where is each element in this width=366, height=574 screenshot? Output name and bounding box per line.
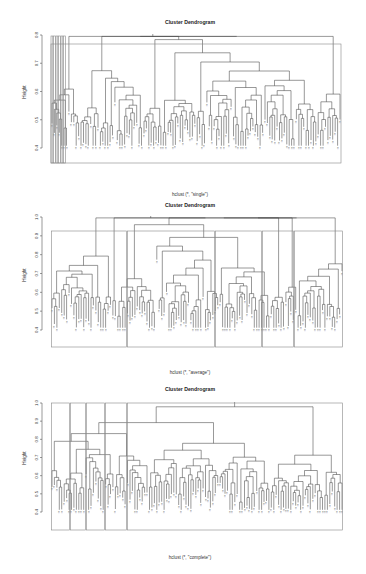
leaf-label: ▯ [337, 147, 339, 150]
leaf-label: ▯ [66, 500, 68, 503]
leaf-label: ▯ [131, 147, 133, 150]
leaf-label: ▯ [309, 319, 311, 322]
cluster-rect [51, 36, 53, 163]
leaf-label: ▯ [224, 495, 226, 498]
leaf-label: ▯ [97, 324, 99, 327]
leaf-label: ▯ [163, 314, 165, 317]
leaf-label: ▯ [274, 142, 276, 145]
leaf-label: ▯ [112, 137, 114, 140]
leaf-label: ▯ [187, 304, 189, 307]
leaf-label: ▯ [228, 145, 230, 148]
leaf-label: ▯ [322, 312, 324, 315]
leaf-label: ▯ [220, 147, 222, 150]
leaf-label: ▯ [190, 322, 192, 325]
leaf-label: ▯ [205, 329, 207, 332]
leaf-label: ▯ [88, 323, 90, 326]
y-tick-label: 0.6 [34, 472, 39, 479]
leaf-label: ▯ [178, 506, 180, 509]
leaf-label: ▯ [253, 508, 255, 511]
leaf-label: ▯ [197, 490, 199, 493]
leaf-label: ▯ [295, 121, 297, 124]
leaf-label: ▯ [211, 142, 213, 145]
y-axis: 0.40.50.60.70.80.91.0 [34, 213, 42, 333]
leaf-label: ▯ [177, 125, 179, 128]
leaf-label: ▯ [150, 144, 152, 147]
leaf-label: ▯ [95, 312, 97, 315]
leaf-label: ▯ [324, 329, 326, 332]
leaf-label: ▯ [163, 511, 165, 514]
leaf-label: ▯ [180, 324, 182, 327]
leaf-label: ▯ [331, 493, 333, 496]
leaf-label: ▯ [88, 511, 90, 514]
y-tick-label: 0.7 [34, 454, 39, 461]
leaf-label: ▯ [312, 322, 314, 325]
leaf-label: ▯ [174, 146, 176, 149]
leaf-label: ▯ [234, 504, 236, 507]
leaf-label: ▯ [300, 327, 302, 330]
leaf-label: ▯ [217, 307, 219, 310]
leaf-label: ▯ [191, 138, 193, 141]
leaf-label: ▯ [252, 128, 254, 131]
leaf-label: ▯ [107, 506, 109, 509]
leaf-label: ▯ [63, 317, 65, 320]
leaf-label: ▯ [246, 314, 248, 317]
y-axis-label: Height [22, 268, 27, 282]
leaf-label: ▯ [92, 307, 94, 310]
leaf-label: ▯ [269, 137, 271, 140]
leaf-label: ▯ [231, 320, 233, 323]
leaf-label: ▯ [78, 138, 80, 141]
leaf-label: ▯ [146, 494, 148, 497]
leaf-label: ▯ [73, 317, 75, 320]
leaf-label: ▯ [304, 329, 306, 332]
leaf-label: ▯ [119, 329, 121, 332]
leaf-label: ▯ [122, 499, 124, 502]
leaf-label: ▯ [124, 506, 126, 509]
leaf-label: ▯ [281, 140, 283, 143]
leaf-label: ▯ [329, 318, 331, 321]
leaf-label: ▯ [236, 322, 238, 325]
leaf-label: ▯ [326, 318, 328, 321]
y-tick-label: 0.7 [34, 270, 39, 277]
leaf-label: ▯ [124, 146, 126, 149]
leaf-label: ▯ [153, 147, 155, 150]
leaf-label: ▯ [209, 322, 211, 325]
y-tick-label: 0.5 [34, 116, 39, 123]
y-tick-label: 0.9 [34, 418, 39, 425]
leaf-label: ▯ [128, 136, 130, 139]
leaf-label: ▯ [209, 509, 211, 512]
leaf-label: ▯ [143, 135, 145, 138]
leaf-label: ▯ [207, 328, 209, 331]
leaf-label: ▯ [216, 147, 218, 150]
leaf-label: ▯ [141, 147, 143, 150]
leaf-label: ▯ [189, 139, 191, 142]
leaf-label: ▯ [205, 499, 207, 502]
leaf-label: ▯ [66, 321, 68, 324]
leaf-label: ▯ [187, 508, 189, 511]
leaf-label: ▯ [266, 124, 268, 127]
leaf-label: ▯ [268, 511, 270, 514]
leaf-label: ▯ [107, 312, 109, 315]
leaf-label: ▯ [102, 511, 104, 514]
leaf-label: ▯ [213, 128, 215, 131]
dendrogram-figure: Cluster Dendrogram hclust (*, "single") … [0, 0, 366, 574]
y-tick-label: 0.4 [34, 144, 39, 151]
leaf-label: ▯ [145, 130, 147, 133]
leaf-label: ▯ [315, 143, 317, 146]
leaf-label: ▯ [80, 320, 82, 323]
leaf-label: ▯ [300, 511, 302, 514]
leaf-label: ▯ [153, 505, 155, 508]
leaf-label: ▯ [70, 305, 72, 308]
leaf-label: ▯ [278, 325, 280, 328]
leaf-label: ▯ [251, 511, 253, 514]
leaf-label: ▯ [332, 141, 334, 144]
cluster-rect [54, 36, 56, 163]
plot-title: Cluster Dendrogram [165, 202, 216, 208]
y-tick-label: 0.7 [34, 60, 39, 67]
leaf-label: ▯ [256, 492, 258, 495]
leaf-label: ▯ [70, 124, 72, 127]
y-tick-label: 0.6 [34, 88, 39, 95]
leaf-label: ▯ [283, 328, 285, 331]
leaf-label: ▯ [312, 500, 314, 503]
y-tick-label: 0.4 [34, 508, 39, 515]
x-axis-label: hclust (*, "average") [170, 370, 211, 375]
